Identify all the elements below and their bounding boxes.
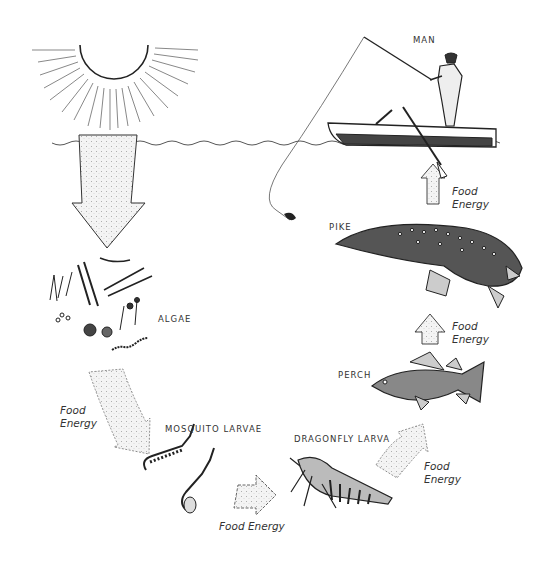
label-pike: PIKE [329,222,352,232]
caption-dragonfly-to-perch: Food Energy [424,460,461,486]
lure-icon [284,213,296,221]
food-chain-diagram: MAN PIKE PERCH ALGAE MOSQUITO LARVAE DRA… [0,0,556,562]
label-man: MAN [413,35,436,45]
label-algae: ALGAE [158,314,191,324]
algae-illustration [50,258,152,350]
sunlight-arrow [72,135,145,248]
perch-illustration [372,352,484,410]
caption-perch-to-pike: Food Energy [452,320,489,346]
energy-arrow-perch-to-pike [415,314,445,344]
pike-illustration [336,224,522,308]
energy-arrow-dragonfly-to-perch [376,424,428,478]
sun-icon [32,45,198,130]
label-mosquito-larvae: MOSQUITO LARVAE [165,424,262,434]
label-dragonfly-larva: DRAGONFLY LARVA [294,434,390,444]
energy-arrow-algae-to-mosquito [89,369,150,454]
label-perch: PERCH [338,370,371,380]
caption-pike-to-man: Food Energy [452,185,489,211]
diagram-artwork [0,0,556,562]
mosquito-larvae-illustration [144,424,214,513]
energy-arrow-mosquito-to-dragonfly [234,475,276,515]
caption-mosquito-to-dragonfly: Food Energy [219,520,285,533]
man-in-boat-illustration [328,53,496,178]
caption-algae-to-mosquito: Food Energy [60,404,97,430]
